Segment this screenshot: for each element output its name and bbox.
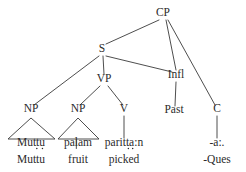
terminal-form: palam (64, 136, 92, 149)
gloss-row: Muttufruitpicked-Ques (17, 153, 231, 166)
node-cp: CP (156, 6, 170, 18)
node-s: S (99, 42, 105, 54)
edge-cp-infl (166, 20, 176, 70)
node-labels: CP S Infl VP NP NP V Past C (24, 6, 222, 115)
terminal-gloss: fruit (68, 153, 89, 165)
node-np-subject: NP (24, 102, 39, 114)
terminal-form: paritta:n (105, 136, 144, 149)
retroflex-underdot (132, 148, 134, 150)
node-infl: Infl (168, 68, 185, 80)
syntax-tree-figure: CP S Infl VP NP NP V Past C Muttupalampa… (0, 0, 246, 172)
terminal-form: Muttu (17, 136, 45, 148)
syntax-tree-canvas: CP S Infl VP NP NP V Past C Muttupalampa… (0, 0, 246, 172)
edge-s-infl (106, 56, 172, 72)
retroflex-underdot (42, 148, 44, 150)
retroflex-underdot (128, 148, 130, 150)
terminal-gloss: Muttu (17, 153, 45, 165)
retroflex-underdot (36, 148, 38, 150)
terminal-row: Muttupalamparitta:n-a:. (17, 136, 225, 149)
node-c: C (213, 102, 221, 114)
branch-lines (34, 20, 217, 138)
edge-cp-c (168, 20, 215, 105)
node-vp: VP (97, 72, 112, 84)
edge-s-np (34, 56, 99, 105)
terminal-gloss: -Ques (203, 153, 231, 165)
node-past: Past (164, 103, 184, 115)
node-np-object: NP (71, 102, 86, 114)
terminal-form: -a:. (209, 136, 224, 148)
terminal-gloss: picked (109, 153, 140, 166)
node-v: V (120, 102, 129, 114)
edge-cp-s (106, 20, 159, 44)
